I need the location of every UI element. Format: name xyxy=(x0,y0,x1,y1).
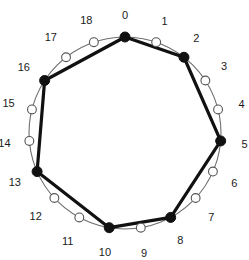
node-label-1: 1 xyxy=(162,16,168,27)
polygon-edge-10-13 xyxy=(37,172,109,228)
node-label-2: 2 xyxy=(193,33,199,44)
polygon-edge-5-8 xyxy=(171,141,221,218)
filled-node-0[interactable] xyxy=(120,32,130,42)
hollow-node-14[interactable] xyxy=(25,137,34,146)
polygon-edge-13-16 xyxy=(37,80,45,171)
filled-node-13[interactable] xyxy=(32,167,42,177)
hollow-node-4[interactable] xyxy=(214,105,223,114)
node-label-12: 12 xyxy=(30,210,42,221)
node-label-3: 3 xyxy=(221,60,227,71)
circular-graph-figure: 0123456789101112131415161718 xyxy=(0,0,249,260)
node-label-6: 6 xyxy=(231,177,237,188)
hollow-node-1[interactable] xyxy=(152,38,161,47)
node-label-0: 0 xyxy=(122,10,128,21)
polygon-edge-16-0 xyxy=(45,37,125,80)
filled-node-8[interactable] xyxy=(166,212,176,222)
hollow-node-3[interactable] xyxy=(201,76,210,85)
node-label-17: 17 xyxy=(45,32,57,43)
filled-node-5[interactable] xyxy=(216,136,226,146)
node-label-7: 7 xyxy=(208,211,214,222)
hollow-node-15[interactable] xyxy=(28,105,37,114)
node-label-18: 18 xyxy=(80,15,92,26)
node-label-16: 16 xyxy=(18,61,30,72)
node-label-5: 5 xyxy=(242,138,248,149)
filled-node-10[interactable] xyxy=(104,223,114,233)
node-label-10: 10 xyxy=(99,247,111,258)
filled-node-16[interactable] xyxy=(40,75,50,85)
hollow-node-7[interactable] xyxy=(191,194,200,203)
node-label-14: 14 xyxy=(0,137,11,148)
node-label-11: 11 xyxy=(62,236,73,247)
node-label-4: 4 xyxy=(238,98,244,109)
node-label-8: 8 xyxy=(177,235,183,246)
node-markers xyxy=(25,32,226,233)
node-label-13: 13 xyxy=(9,176,21,187)
hollow-node-17[interactable] xyxy=(62,53,71,62)
hollow-node-11[interactable] xyxy=(75,213,84,222)
hollow-node-18[interactable] xyxy=(89,38,98,47)
hollow-node-12[interactable] xyxy=(50,194,59,203)
node-label-15: 15 xyxy=(2,97,14,108)
filled-node-2[interactable] xyxy=(179,52,189,62)
hollow-node-9[interactable] xyxy=(136,223,145,232)
hollow-node-6[interactable] xyxy=(209,167,218,176)
node-label-9: 9 xyxy=(141,248,147,259)
